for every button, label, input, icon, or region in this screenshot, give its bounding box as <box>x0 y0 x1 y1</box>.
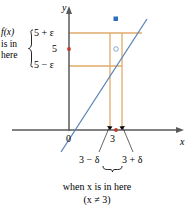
delta-minus-leader <box>99 128 109 152</box>
x-value-marker-icon <box>114 128 118 132</box>
x-axis-arrow-icon <box>176 127 184 133</box>
caption-line1: when x is in here <box>0 180 194 193</box>
delta-label-minus: 3 − δ <box>79 155 99 165</box>
y-tick-label-lower: 5 − ε <box>34 60 54 70</box>
x-tick-label-origin: 0 <box>66 134 71 144</box>
y-tick-label-upper: 5 + ε <box>34 28 54 38</box>
x-tick-label-center: 3 <box>110 134 115 144</box>
delta-plus-leader <box>123 128 133 152</box>
fx-description-label: f(x) is in here <box>1 27 29 62</box>
fx-description-line2: is in <box>1 39 29 51</box>
y-axis-name-label: y <box>62 3 66 13</box>
epsilon-band-lines <box>69 33 142 66</box>
x-axis-name-label: x <box>180 137 184 147</box>
limit-definition-figure: f(x) is in here 5 + ε 5 5 − ε y x 0 3 3 … <box>0 0 194 212</box>
y-value-marker-icon <box>67 47 71 51</box>
delta-label-plus: 3 + δ <box>122 155 142 165</box>
figure-caption: when x is in here (x ≠ 3) <box>0 180 194 206</box>
caption-line2: (x ≠ 3) <box>0 193 194 206</box>
delta-underbrace-icon <box>103 166 122 172</box>
function-line-segment <box>61 19 147 152</box>
y-tick-label-center: 5 <box>52 44 57 54</box>
function-value-point-icon <box>114 17 119 22</box>
function-line <box>61 19 147 152</box>
y-axis-arrow-icon <box>66 6 72 14</box>
fx-description-line1: f(x) <box>1 27 29 39</box>
epsilon-brace-icon <box>29 30 34 67</box>
removable-discontinuity-hole-icon <box>114 47 119 52</box>
fx-description-line3: here <box>1 50 29 62</box>
